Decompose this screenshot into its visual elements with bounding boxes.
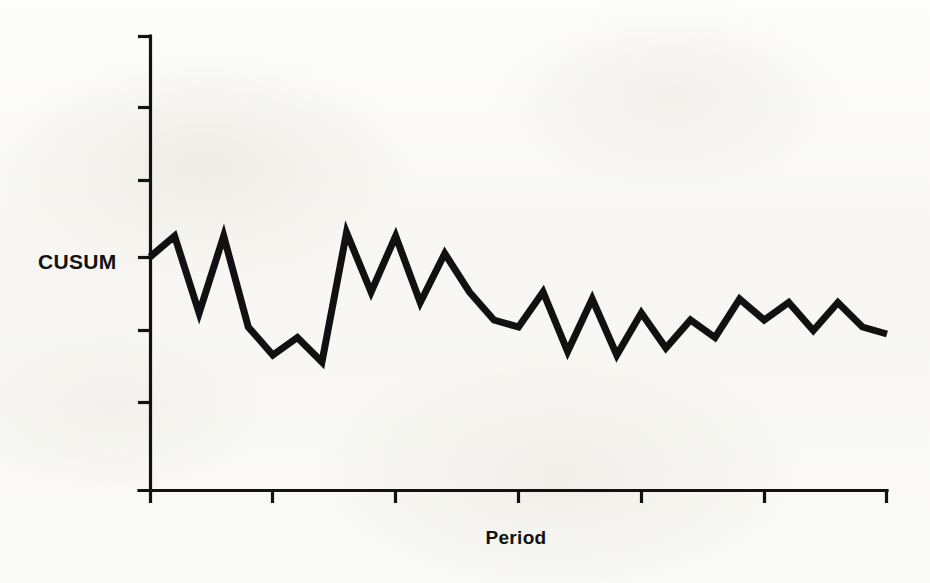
cusum-chart: CUSUM Period [0, 0, 930, 583]
cusum-data-line [150, 233, 887, 363]
x-axis-group [139, 490, 887, 503]
y-axis-label: CUSUM [38, 250, 117, 274]
y-axis-group [138, 36, 151, 491]
chart-plot-area [0, 0, 930, 583]
x-axis-label: Period [51, 527, 930, 549]
